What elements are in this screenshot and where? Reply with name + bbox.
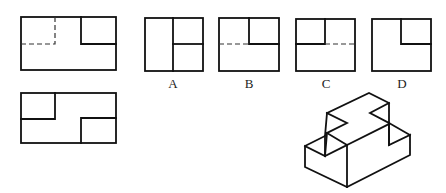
- diagram-canvas: [0, 0, 446, 193]
- given-view-front: [21, 17, 116, 70]
- option-d-label: D: [397, 76, 406, 92]
- option-b-label: B: [245, 76, 254, 92]
- option-c-label: C: [322, 76, 331, 92]
- option-a-view[interactable]: [145, 18, 203, 71]
- option-b-view[interactable]: [219, 18, 279, 71]
- isometric-solid: [305, 93, 410, 187]
- option-a-label: A: [168, 76, 177, 92]
- option-d-view[interactable]: [372, 19, 431, 71]
- given-view-top: [21, 93, 116, 143]
- option-c-view[interactable]: [296, 19, 355, 71]
